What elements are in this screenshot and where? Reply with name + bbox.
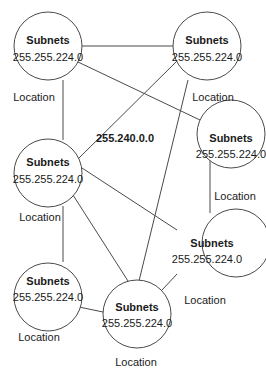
node-f-title: Subnets <box>26 275 69 287</box>
edge-g-e <box>162 274 177 290</box>
node-b-mask: 255.255.224.0 <box>172 51 242 63</box>
node-g-title: Subnets <box>115 301 158 313</box>
node-a-mask: 255.255.224.0 <box>13 51 83 63</box>
supernet-mask-label: 255.240.0.0 <box>96 132 154 144</box>
node-a-title: Subnets <box>26 34 69 46</box>
edges <box>63 46 210 312</box>
subnet-diagram: Subnets 255.255.224.0 Location Subnets 2… <box>0 0 266 377</box>
node-g-location: Location <box>115 356 157 368</box>
node-c-mask: 255.255.224.0 <box>196 148 266 160</box>
node-d-mask: 255.255.224.0 <box>13 173 83 185</box>
node-c-location: Location <box>214 190 256 202</box>
edge-f-g <box>79 307 103 312</box>
node-a-circle <box>14 12 82 80</box>
node-d-location: Location <box>19 211 61 223</box>
node-b-circle <box>173 12 241 80</box>
node-g-circle <box>103 280 171 348</box>
node-d-title: Subnets <box>26 156 69 168</box>
node-b-title: Subnets <box>185 34 228 46</box>
node-g-mask: 255.255.224.0 <box>102 317 172 329</box>
node-b-location: Location <box>192 91 234 103</box>
node-e-title: Subnets <box>190 237 233 249</box>
node-e-mask: 255.255.224.0 <box>172 253 242 265</box>
node-c-title: Subnets <box>209 132 252 144</box>
edge-d-e <box>82 168 177 230</box>
node-e-location: Location <box>184 294 226 306</box>
node-f-mask: 255.255.224.0 <box>13 291 83 303</box>
node-a-location: Location <box>13 91 55 103</box>
edge-d-g <box>73 195 128 281</box>
edge-b-g <box>139 80 188 281</box>
node-f-location: Location <box>18 331 60 343</box>
edge-a-c <box>78 62 200 120</box>
